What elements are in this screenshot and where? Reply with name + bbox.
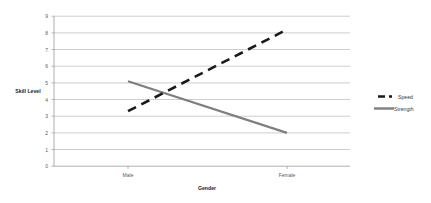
y-tick-label-6: 6 xyxy=(45,63,48,69)
y-tick-label-4: 4 xyxy=(45,97,48,103)
chart-canvas: 9 8 7 6 5 4 3 2 1 0 Skill Level Male Fem… xyxy=(0,0,431,203)
chart-background xyxy=(0,0,431,203)
legend-label-speed: Speed xyxy=(398,94,413,100)
y-tick-label-5: 5 xyxy=(45,80,48,86)
x-tick-label-female: Female xyxy=(279,172,296,178)
line-chart: 9 8 7 6 5 4 3 2 1 0 Skill Level Male Fem… xyxy=(0,0,431,203)
y-tick-label-3: 3 xyxy=(45,113,48,119)
y-tick-label-2: 2 xyxy=(45,130,48,136)
legend-label-strength: Strength xyxy=(394,106,414,112)
y-tick-label-0: 0 xyxy=(45,163,48,169)
x-axis-title: Gender xyxy=(198,185,216,191)
y-tick-label-8: 8 xyxy=(45,30,48,36)
y-axis-title: Skill Level xyxy=(15,88,41,94)
y-tick-label-1: 1 xyxy=(45,147,48,153)
y-tick-label-7: 7 xyxy=(45,47,48,53)
y-tick-label-9: 9 xyxy=(45,13,48,19)
x-tick-label-male: Male xyxy=(123,172,134,178)
